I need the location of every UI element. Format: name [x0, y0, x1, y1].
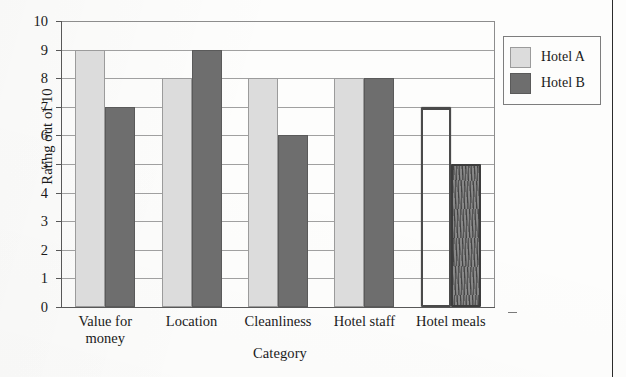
- y-tick-label: 7: [41, 98, 48, 115]
- legend-label-hotel-a: Hotel A: [541, 49, 585, 65]
- bar-hotel-a-hotel-meals: [421, 107, 451, 307]
- gridline: [62, 50, 494, 51]
- legend-item-hotel-a: Hotel A: [510, 44, 600, 70]
- plot-right-border: [494, 21, 495, 308]
- y-tick-label: 6: [41, 127, 48, 144]
- bar-hotel-a-location: [162, 78, 192, 307]
- plot-top-border: [61, 21, 495, 22]
- legend-label-hotel-b: Hotel B: [541, 75, 585, 91]
- legend-item-hotel-b: Hotel B: [510, 70, 600, 96]
- y-tick-mark: 3: [56, 221, 62, 222]
- y-tick-label: 3: [41, 213, 48, 230]
- scan-stray-mark: [508, 312, 517, 313]
- gridline: [62, 78, 494, 79]
- y-tick-label: 10: [34, 13, 49, 30]
- y-tick-mark: 4: [56, 193, 62, 194]
- legend-swatch-icon-hotel-b: [510, 73, 531, 94]
- legend-swatch-icon-hotel-a: [510, 47, 531, 68]
- bar-hotel-b-value-for-money: [105, 107, 135, 307]
- y-tick-mark: 2: [56, 250, 62, 251]
- page-border-rule: [612, 0, 613, 377]
- bar-hotel-b-location: [192, 50, 222, 307]
- plot-area: 109876543210 Value for moneyLocationClea…: [62, 21, 494, 307]
- bar-hotel-a-value-for-money: [75, 50, 105, 307]
- y-tick-mark: 6: [56, 135, 62, 136]
- y-tick-label: 4: [41, 184, 48, 201]
- chart-legend: Hotel A Hotel B: [503, 36, 601, 105]
- y-tick-mark: 7: [56, 107, 62, 108]
- bar-hotel-a-cleanliness: [248, 78, 278, 307]
- bar-hotel-b-cleanliness: [278, 135, 308, 307]
- bar-hotel-a-hotel-staff: [334, 78, 364, 307]
- category-label-hotel-meals: Hotel meals: [396, 313, 506, 330]
- y-tick-mark: 10: [56, 21, 62, 22]
- y-tick-label: 9: [41, 41, 48, 58]
- y-tick-mark: 8: [56, 78, 62, 79]
- y-tick-mark: 9: [56, 50, 62, 51]
- bar-hotel-b-hotel-meals: [451, 164, 481, 307]
- y-tick-mark: 0: [56, 307, 62, 308]
- y-tick-mark: 5: [56, 164, 62, 165]
- y-tick-mark: 1: [56, 278, 62, 279]
- y-tick-label: 2: [41, 241, 48, 258]
- x-axis-title: Category: [0, 345, 560, 362]
- y-tick-label: 5: [41, 156, 48, 173]
- bar-chart-figure: Rating out of 10 Category 109876543210 V…: [0, 0, 612, 377]
- y-tick-label: 0: [41, 299, 48, 316]
- x-axis-line: [61, 307, 495, 308]
- bar-hotel-b-hotel-staff: [364, 78, 394, 307]
- y-tick-label: 1: [41, 270, 48, 287]
- y-tick-label: 8: [41, 70, 48, 87]
